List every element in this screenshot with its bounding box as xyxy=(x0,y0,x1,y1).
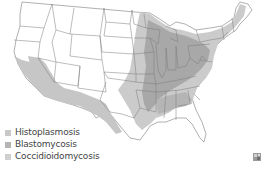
legend-swatch xyxy=(5,154,11,160)
legend-item-coccidioidomycosis: Coccidioidomycosis xyxy=(5,151,99,162)
legend-label: Blastomycosis xyxy=(15,139,77,150)
legend-label: Histoplasmosis xyxy=(15,127,80,138)
legend-swatch xyxy=(5,142,11,148)
legend-item-blastomycosis: Blastomycosis xyxy=(5,139,99,150)
map-legend: Histoplasmosis Blastomycosis Coccidioido… xyxy=(5,127,99,163)
legend-label: Coccidioidomycosis xyxy=(15,151,99,162)
expand-map-icon[interactable] xyxy=(253,153,261,161)
legend-swatch xyxy=(5,130,11,136)
legend-item-histoplasmosis: Histoplasmosis xyxy=(5,127,99,138)
